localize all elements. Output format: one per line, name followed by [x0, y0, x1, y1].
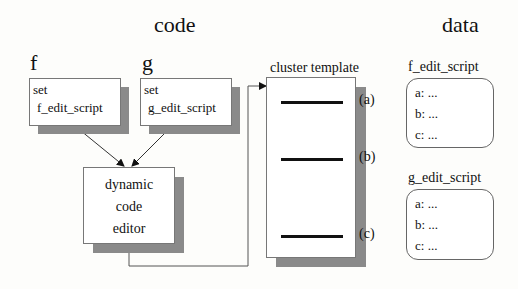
f-edit-script-data-title: f_edit_script: [408, 59, 479, 75]
g-data-entry-c: c: ...: [415, 235, 485, 256]
template-slot-c-label: (c): [359, 226, 375, 242]
editor-line2: code: [84, 196, 174, 218]
editor-line3: editor: [84, 218, 174, 240]
f-data-entry-a: a: ...: [415, 82, 485, 103]
function-f-label: f: [30, 50, 37, 76]
cluster-template-box: [266, 77, 356, 258]
f-box-line2: f_edit_script: [33, 99, 117, 117]
code-section-title: code: [154, 12, 196, 38]
template-slot-b-line: [281, 158, 343, 161]
g-edit-script-data-box: a: ... b: ... c: ...: [406, 189, 494, 260]
set-g-edit-script-box: set g_edit_script: [140, 78, 232, 126]
set-f-edit-script-box: set f_edit_script: [29, 78, 121, 126]
f-edit-script-data-box: a: ... b: ... c: ...: [406, 78, 494, 148]
function-g-label: g: [142, 50, 153, 76]
data-section-title: data: [442, 12, 479, 38]
editor-line1: dynamic: [84, 174, 174, 196]
f-box-line1: set: [33, 81, 117, 99]
g-box-line2: g_edit_script: [144, 99, 228, 117]
f-data-entry-c: c: ...: [415, 124, 485, 145]
template-slot-b-label: (b): [359, 149, 375, 165]
template-slot-a-label: (a): [359, 92, 375, 108]
f-data-entry-b: b: ...: [415, 103, 485, 124]
dynamic-code-editor-box: dynamic code editor: [83, 167, 175, 244]
template-slot-c-line: [281, 235, 343, 238]
g-edit-script-data-title: g_edit_script: [408, 170, 481, 186]
g-data-entry-a: a: ...: [415, 193, 485, 214]
cluster-template-title: cluster template: [270, 60, 359, 76]
template-slot-a-line: [281, 101, 343, 104]
g-data-entry-b: b: ...: [415, 214, 485, 235]
g-box-line1: set: [144, 81, 228, 99]
